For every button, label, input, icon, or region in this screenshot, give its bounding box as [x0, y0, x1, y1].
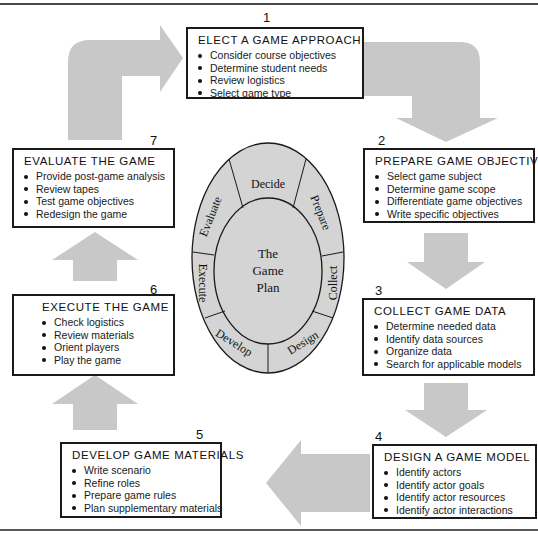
list-item: Redesign the game — [24, 208, 165, 221]
arrow-4-to-5-icon — [266, 440, 370, 526]
list-item: Determine student needs — [198, 62, 354, 75]
list-item: Review logistics — [198, 74, 354, 87]
list-item: Test game objectives — [24, 195, 165, 208]
step-6-title: EXECUTE THE GAME — [42, 301, 165, 313]
arrow-2-to-3-icon — [407, 233, 485, 289]
step-5-list: Write scenario Refine roles Prepare game… — [72, 464, 212, 514]
list-item: Differentiate game objectives — [375, 195, 525, 208]
list-item: Search for applicable models — [374, 358, 525, 371]
step-3-box: COLLECT GAME DATA Determine needed data … — [362, 298, 535, 376]
list-item: Select game subject — [375, 170, 525, 183]
list-item: Review tapes — [24, 183, 165, 196]
step-6-box: EXECUTE THE GAME Check logistics Review … — [12, 294, 175, 376]
arrow-5-to-6-icon — [52, 375, 138, 430]
list-item: Identify actor interactions — [384, 504, 527, 517]
step-2-box: PREPARE GAME OBJECTIVES Select game subj… — [363, 148, 535, 223]
step-2-list: Select game subject Determine game scope… — [375, 170, 525, 220]
step-1-title: ELECT A GAME APPROACH — [198, 34, 354, 46]
segment-execute: Execute — [196, 264, 210, 303]
step-3-number: 3 — [375, 283, 382, 298]
step-2-number: 2 — [378, 133, 385, 148]
step-1-box: ELECT A GAME APPROACH Consider course ob… — [186, 27, 364, 99]
list-item: Write specific objectives — [375, 208, 525, 221]
list-item: Provide post-game analysis — [24, 170, 165, 183]
step-7-number: 7 — [150, 133, 157, 148]
list-item: Check logistics — [42, 316, 165, 329]
segment-collect: Collect — [326, 265, 340, 300]
list-item: Orient players — [42, 341, 165, 354]
step-6-list: Check logistics Review materials Orient … — [42, 316, 165, 366]
list-item: Select game type — [198, 87, 354, 100]
step-2-title: PREPARE GAME OBJECTIVES — [375, 155, 525, 167]
list-item: Review materials — [42, 329, 165, 342]
arrow-1-to-2-icon — [363, 42, 498, 142]
list-item: Determine needed data — [374, 320, 525, 333]
list-item: Identify actor goals — [384, 479, 527, 492]
step-5-title: DEVELOP GAME MATERIALS — [72, 449, 212, 461]
step-4-number: 4 — [375, 429, 382, 444]
arrow-3-to-4-icon — [405, 383, 487, 437]
center-label-line-1: The — [258, 246, 278, 261]
list-item: Identify actor resources — [384, 491, 527, 504]
segment-decide: Decide — [251, 177, 285, 191]
step-7-box: EVALUATE THE GAME Provide post-game anal… — [12, 148, 175, 228]
step-4-title: DESIGN A GAME MODEL — [384, 451, 527, 463]
step-4-list: Identify actors Identify actor goals Ide… — [384, 466, 527, 516]
list-item: Identify data sources — [374, 333, 525, 346]
list-item: Consider course objectives — [198, 49, 354, 62]
list-item: Refine roles — [72, 477, 212, 490]
list-item: Plan supplementary materials — [72, 502, 212, 515]
step-1-number: 1 — [263, 10, 270, 25]
list-item: Prepare game rules — [72, 489, 212, 502]
step-5-box: DEVELOP GAME MATERIALS Write scenario Re… — [60, 442, 222, 518]
list-item: Write scenario — [72, 464, 212, 477]
step-3-title: COLLECT GAME DATA — [374, 305, 525, 317]
step-3-list: Determine needed data Identify data sour… — [374, 320, 525, 370]
step-1-list: Consider course objectives Determine stu… — [198, 49, 354, 99]
step-7-title: EVALUATE THE GAME — [24, 155, 165, 167]
list-item: Organize data — [374, 345, 525, 358]
list-item: Identify actors — [384, 466, 527, 479]
list-item: Play the game — [42, 354, 165, 367]
game-plan-cycle: Decide Prepare Collect Design Develop Ex… — [192, 143, 344, 373]
step-5-number: 5 — [196, 427, 203, 442]
center-label-line-2: Game — [252, 263, 283, 278]
step-7-list: Provide post-game analysis Review tapes … — [24, 170, 165, 220]
list-item: Determine game scope — [375, 183, 525, 196]
step-4-box: DESIGN A GAME MODEL Identify actors Iden… — [372, 444, 537, 519]
arrow-6-to-7-icon — [52, 232, 138, 281]
center-label-line-3: Plan — [256, 280, 280, 295]
arrow-7-to-1-icon — [68, 25, 183, 140]
